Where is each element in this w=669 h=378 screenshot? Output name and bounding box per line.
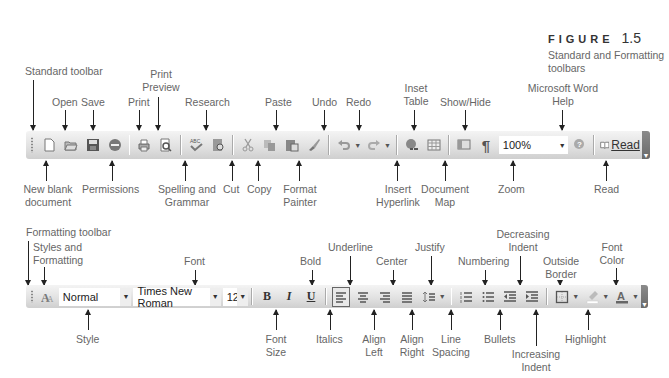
new-blank-document-button[interactable] xyxy=(40,135,58,155)
arrow xyxy=(562,110,563,130)
style-combo[interactable]: Normal ▼ xyxy=(59,288,132,306)
arrow xyxy=(324,110,325,130)
arrow xyxy=(299,161,300,181)
toolbar-grip[interactable] xyxy=(30,137,35,154)
justify-button[interactable] xyxy=(398,287,416,307)
toolbar-options-button[interactable]: ▼ xyxy=(641,285,648,308)
label-research: Research xyxy=(185,96,230,109)
font-color-button[interactable]: A xyxy=(613,287,631,307)
arrow xyxy=(158,97,159,130)
separator xyxy=(546,288,548,304)
label-insert-table: Inset Table xyxy=(400,82,432,108)
chevron-down-icon[interactable]: ▼ xyxy=(210,288,221,306)
align-right-button[interactable] xyxy=(376,287,394,307)
label-save: Save xyxy=(81,96,105,109)
arrow xyxy=(65,110,66,130)
redo-icon xyxy=(367,138,381,152)
permissions-button[interactable] xyxy=(106,135,124,155)
cut-button[interactable] xyxy=(239,135,257,155)
arrow xyxy=(44,267,45,285)
undo-dropdown-arrow[interactable]: ▼ xyxy=(354,142,361,149)
toolbar-options-button[interactable]: ▼ xyxy=(642,131,650,159)
arrow xyxy=(112,161,113,181)
paste-button[interactable] xyxy=(283,135,301,155)
print-preview-button[interactable] xyxy=(157,135,175,155)
show-hide-button[interactable]: ¶ xyxy=(477,135,495,155)
label-decreasing-indent: Decreasing Indent xyxy=(494,228,552,254)
border-dropdown-arrow[interactable]: ▼ xyxy=(572,293,579,300)
arrow xyxy=(312,270,313,285)
italic-button[interactable]: I xyxy=(280,287,298,307)
increase-indent-button[interactable] xyxy=(523,287,541,307)
label-line-spacing: Line Spacing xyxy=(431,333,471,359)
styles-icon: AA xyxy=(41,290,55,304)
separator xyxy=(325,288,327,304)
arrow xyxy=(232,161,233,181)
arrow xyxy=(374,310,375,330)
format-painter-button[interactable] xyxy=(305,135,323,155)
copy-button[interactable] xyxy=(261,135,279,155)
toolbar-grip[interactable] xyxy=(30,290,34,304)
align-left-button[interactable] xyxy=(332,287,350,307)
line-spacing-dropdown-arrow[interactable]: ▼ xyxy=(439,293,446,300)
arrow xyxy=(536,310,537,346)
label-font: Font xyxy=(184,255,205,268)
insert-table-button[interactable] xyxy=(425,135,443,155)
outside-border-button[interactable] xyxy=(553,287,571,307)
pilcrow-icon: ¶ xyxy=(482,137,490,154)
label-paste: Paste xyxy=(265,96,292,109)
bold-button[interactable]: B xyxy=(258,287,276,307)
chevron-down-icon[interactable]: ▼ xyxy=(237,288,248,306)
separator xyxy=(232,135,234,155)
insert-hyperlink-button[interactable] xyxy=(403,135,421,155)
svg-text:A: A xyxy=(617,290,625,302)
highlight-dropdown-arrow[interactable]: ▼ xyxy=(602,293,609,300)
redo-button[interactable] xyxy=(365,135,383,155)
document-map-button[interactable] xyxy=(455,135,473,155)
chevron-down-icon[interactable]: ▼ xyxy=(557,136,568,154)
separator xyxy=(593,135,595,155)
save-button[interactable] xyxy=(84,135,102,155)
label-standard-toolbar: Standard toolbar xyxy=(25,65,103,78)
spelling-grammar-button[interactable]: ABC xyxy=(187,135,205,155)
label-spelling-grammar: Spelling and Grammar xyxy=(152,183,222,209)
numbering-button[interactable] xyxy=(457,287,475,307)
font-color-dropdown-arrow[interactable]: ▼ xyxy=(632,293,639,300)
styles-formatting-button[interactable]: AA xyxy=(39,287,57,307)
underline-button[interactable]: U xyxy=(302,287,320,307)
arrow xyxy=(139,110,140,130)
decrease-indent-button[interactable] xyxy=(501,287,519,307)
font-combo[interactable]: Times New Roman ▼ xyxy=(133,288,220,306)
read-button[interactable]: Read xyxy=(600,135,640,155)
line-spacing-button[interactable] xyxy=(420,287,438,307)
label-read: Read xyxy=(594,183,619,196)
zoom-combo[interactable]: 100% ▼ xyxy=(499,136,568,154)
label-bullets: Bullets xyxy=(484,333,516,346)
align-right-icon xyxy=(378,290,392,304)
center-button[interactable] xyxy=(354,287,372,307)
svg-text:A: A xyxy=(47,294,54,304)
label-style: Style xyxy=(76,333,99,346)
research-button[interactable] xyxy=(209,135,227,155)
chevron-down-icon[interactable]: ▼ xyxy=(120,288,131,306)
label-outside-border: Outside Border xyxy=(541,255,581,281)
label-italics: Italics xyxy=(316,333,343,346)
label-increasing-indent: Increasing Indent xyxy=(508,348,564,374)
font-size-combo[interactable]: 12 ▼ xyxy=(223,288,249,306)
open-button[interactable] xyxy=(62,135,80,155)
arrow xyxy=(185,161,186,181)
undo-button[interactable] xyxy=(335,135,353,155)
redo-dropdown-arrow[interactable]: ▼ xyxy=(384,142,391,149)
arrow xyxy=(588,310,589,330)
standard-toolbar: ABC ▼ ▼ ¶ 100% ▼ ? Rea xyxy=(26,131,650,159)
highlight-button[interactable] xyxy=(583,287,601,307)
arrow xyxy=(28,241,29,285)
print-button[interactable] xyxy=(135,135,153,155)
bulleted-list-icon xyxy=(481,290,495,304)
figure-caption: FIGURE1.5 Standard and Formatting toolba… xyxy=(548,30,669,75)
help-button[interactable]: ? xyxy=(570,135,588,155)
label-font-size: Font Size xyxy=(262,333,290,359)
label-align-right: Align Right xyxy=(398,333,426,359)
label-document-map: Document Map xyxy=(420,183,470,209)
bullets-button[interactable] xyxy=(479,287,497,307)
